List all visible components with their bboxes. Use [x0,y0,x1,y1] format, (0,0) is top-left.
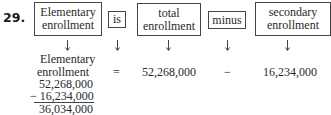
box-text: is [113,13,121,26]
box-text-line: total [143,7,195,20]
box-text-line: enrollment [143,20,195,33]
secondary-value: 16,234,000 [263,66,317,78]
box-text-line: enrollment [267,19,319,32]
box-elementary-enrollment: Elementary enrollment [34,2,102,36]
box-is: is [108,11,126,28]
unknown-label-line1: Elementary [40,53,95,65]
equals-sign: = [113,66,120,78]
minus-operator: − [224,66,231,78]
down-arrow-icon [223,40,232,51]
subtrahend: − 16,234,000 [30,90,93,102]
box-minus: minus [208,11,246,29]
box-text: minus [212,14,241,27]
down-arrow-icon [63,40,72,51]
down-arrow-icon [113,40,122,51]
total-value: 52,268,000 [142,66,196,78]
difference-result: 36,034,000 [30,103,93,115]
problem-number: 29. [3,10,25,25]
down-arrow-icon [164,40,173,51]
down-arrow-icon [283,40,292,51]
box-total-enrollment: total enrollment [137,3,201,36]
box-text-line: enrollment [40,19,95,32]
box-secondary-enrollment: secondary enrollment [255,2,331,36]
